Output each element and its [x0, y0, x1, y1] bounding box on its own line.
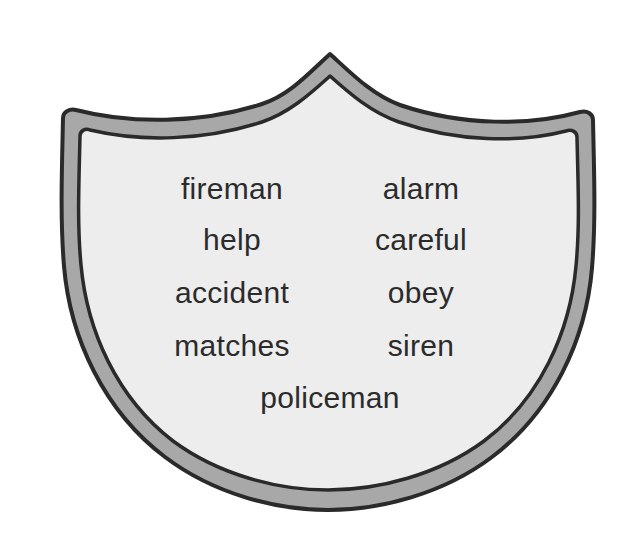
word-item[interactable]: help	[203, 223, 261, 257]
shield-shape	[0, 0, 643, 537]
word-item[interactable]: careful	[375, 223, 467, 257]
shield-figure: fireman alarm help careful accident obey…	[0, 0, 643, 537]
word-item[interactable]: policeman	[260, 381, 399, 415]
word-item[interactable]: siren	[388, 329, 455, 363]
word-item[interactable]: accident	[175, 276, 289, 310]
word-item[interactable]: matches	[174, 329, 289, 363]
word-item[interactable]: fireman	[181, 172, 283, 206]
word-item[interactable]: obey	[388, 276, 454, 310]
word-item[interactable]: alarm	[383, 172, 460, 206]
